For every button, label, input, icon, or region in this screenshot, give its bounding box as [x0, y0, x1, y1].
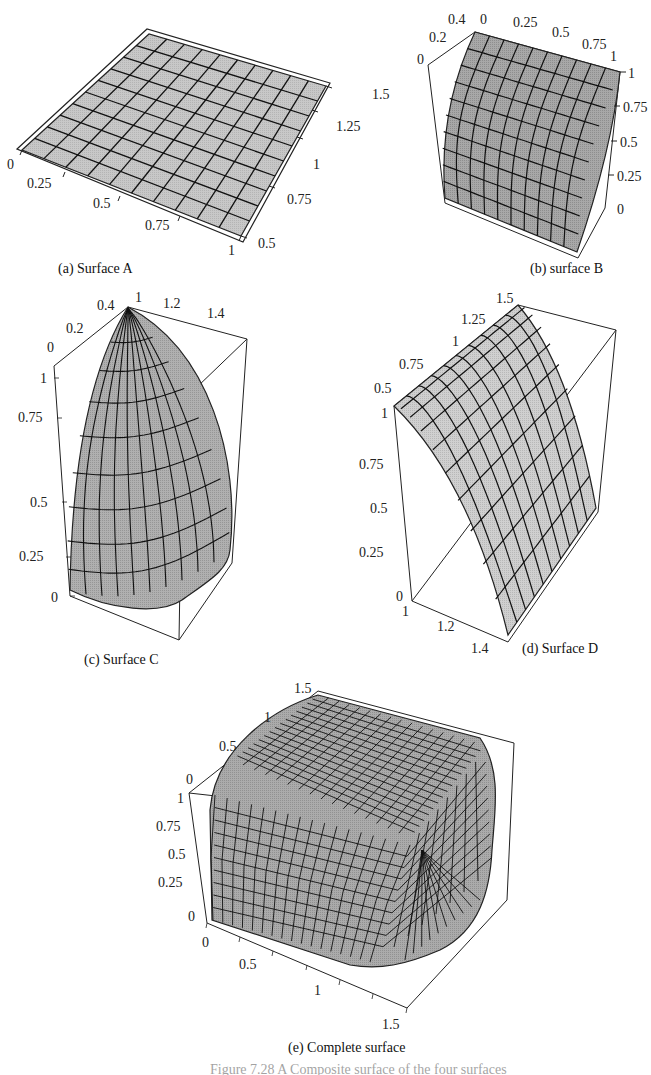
- complete-surface-z-tick: 0: [188, 910, 195, 924]
- complete-surface-z-tick: 0.25: [158, 876, 183, 890]
- surface-b-depth-tick: 0: [417, 53, 424, 67]
- surface-c-z-tick: 1: [40, 372, 47, 386]
- panel-surface-c: 0 0.2 0.4 1 1.2 1.4 1 0.75 0.5 0.25 0 (c…: [0, 280, 330, 660]
- surface-d-depth-tick: 1: [452, 335, 459, 349]
- surface-c-x-tick: 1.4: [207, 307, 225, 321]
- surface-d-depth-tick: 1.5: [496, 292, 514, 306]
- surface-a-caption: (a) Surface A: [58, 261, 133, 277]
- complete-surface-x-tick: 0: [202, 936, 209, 950]
- surface-d-depth-tick: 0.75: [399, 358, 424, 372]
- surface-b-x-tick: 0.75: [582, 38, 607, 52]
- surface-d-z-tick: 0.25: [359, 546, 384, 560]
- panel-complete-surface: 0 0.5 1 1.5 1 0.75 0.5 0.25 0 0 0.5 1 1.…: [140, 640, 540, 1060]
- complete-surface-plot: [140, 640, 540, 1060]
- surface-d-x-tick: 1.2: [437, 620, 455, 634]
- surface-d-z-tick: 0: [396, 590, 403, 604]
- surface-c-z-tick: 0.5: [30, 496, 48, 510]
- surface-d-z-tick: 1: [381, 407, 388, 421]
- panel-surface-a: 0 0.25 0.5 0.75 1 0.5 0.75 1 1.25 1.5 (a…: [0, 0, 330, 280]
- surface-b-z-tick: 0: [617, 203, 624, 217]
- complete-surface-depth-tick: 1: [264, 711, 271, 725]
- surface-a-x-tick: 0.75: [145, 219, 170, 233]
- surface-a-plot: [0, 0, 330, 280]
- surface-a-x-tick: 0.5: [93, 197, 111, 211]
- complete-surface-depth-tick: 0.5: [219, 740, 237, 754]
- surface-c-z-tick: 0: [51, 591, 58, 605]
- surface-c-depth-tick: 0.4: [97, 299, 115, 313]
- surface-c-plot: [0, 280, 330, 660]
- complete-surface-z-tick: 0.5: [168, 848, 186, 862]
- complete-surface-x-tick: 1.5: [382, 1018, 400, 1032]
- surface-c-z-tick: 0.25: [19, 550, 44, 564]
- surface-b-z-tick: 0.75: [623, 101, 648, 115]
- surface-a-x-tick: 0.25: [27, 177, 52, 191]
- surface-a-y-tick: 1: [313, 158, 320, 172]
- complete-surface-depth-tick: 1.5: [294, 682, 312, 696]
- surface-d-z-tick: 0.5: [370, 502, 388, 516]
- surface-b-x-tick: 0: [480, 13, 487, 27]
- surface-b-depth-tick: 0.2: [429, 31, 447, 45]
- panel-surface-d: 0.5 0.75 1 1.25 1.5 1 0.75 0.5 0.25 0 1 …: [330, 280, 651, 660]
- surface-b-z-tick: 1: [628, 67, 635, 81]
- surface-b-x-tick: 0.5: [552, 26, 570, 40]
- surface-c-depth-tick: 0: [47, 341, 54, 355]
- surface-c-z-tick: 0.75: [18, 411, 43, 425]
- surface-c-x-tick: 1.2: [163, 297, 181, 311]
- surface-c-depth-tick: 0.2: [66, 322, 84, 336]
- complete-surface-depth-tick: 0: [186, 773, 193, 787]
- complete-surface-z-tick: 0.75: [156, 820, 181, 834]
- surface-b-depth-tick: 0.4: [448, 13, 466, 27]
- surface-b-x-tick: 0.25: [513, 16, 538, 30]
- surface-a-y-tick: 0.5: [258, 237, 276, 251]
- panel-surface-b: 0 0.2 0.4 0 0.25 0.5 0.75 1 1 0.75 0.5 0…: [330, 0, 651, 290]
- surface-c-x-tick: 1: [135, 291, 142, 305]
- complete-surface-x-tick: 0.5: [239, 958, 257, 972]
- surface-d-x-tick: 1: [402, 605, 409, 619]
- surface-d-depth-tick: 0.5: [374, 382, 392, 396]
- surface-b-x-tick: 1: [610, 50, 617, 64]
- surface-a-x-tick: 1: [228, 244, 235, 258]
- complete-surface-z-tick: 1: [177, 792, 184, 806]
- surface-b-z-tick: 0.5: [620, 136, 638, 150]
- surface-a-x-tick: 0: [7, 158, 14, 172]
- surface-a-y-tick: 0.75: [287, 193, 312, 207]
- surface-b-z-tick: 0.25: [617, 170, 642, 184]
- complete-surface-x-tick: 1: [314, 984, 321, 998]
- surface-d-depth-tick: 1.25: [461, 313, 486, 327]
- complete-surface-caption: (e) Complete surface: [288, 1040, 405, 1056]
- figure-caption: Figure 7.28 A Composite surface of the f…: [210, 1062, 507, 1075]
- surface-d-z-tick: 0.75: [359, 458, 384, 472]
- surface-b-caption: (b) surface B: [530, 261, 603, 277]
